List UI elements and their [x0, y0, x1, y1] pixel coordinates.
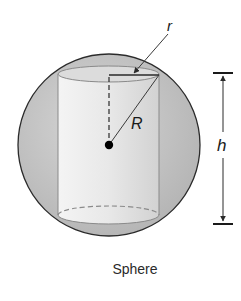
label-h: h: [217, 136, 226, 155]
label-r: r: [167, 17, 173, 34]
label-R: R: [131, 115, 143, 132]
figure-caption: Sphere: [112, 261, 157, 277]
sphere-cylinder-diagram: r R h Sphere: [0, 0, 241, 301]
center-point: [105, 141, 113, 149]
